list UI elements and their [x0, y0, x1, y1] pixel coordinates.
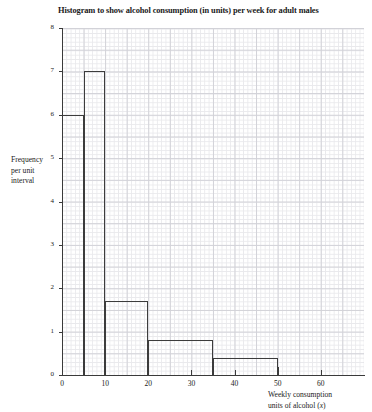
x-axis-tick — [191, 370, 192, 375]
chart-title: Histogram to show alcohol consumption (i… — [58, 5, 372, 16]
y-axis-tick — [59, 28, 62, 29]
y-axis-title: Frequency per unit interval — [11, 155, 61, 187]
x-axis-title-suffix: ) — [323, 401, 326, 410]
x-axis-line — [62, 375, 365, 376]
histogram-bar — [148, 340, 213, 375]
x-axis-bin-edge-tick — [105, 367, 106, 375]
y-axis-tick — [59, 375, 62, 376]
x-axis-bin-edge-tick — [213, 367, 214, 375]
y-axis-title-line-1: Frequency — [11, 155, 61, 166]
x-axis-tick-label: 0 — [52, 379, 72, 388]
x-axis-title: Weekly consumption units of alcohol (x) — [268, 390, 372, 411]
x-axis-tick-label: 60 — [311, 379, 331, 388]
histogram-bar — [84, 71, 106, 375]
histogram-bar — [213, 358, 278, 375]
y-axis-tick — [59, 245, 62, 246]
x-axis-tick-label: 40 — [225, 379, 245, 388]
y-axis-tick — [59, 115, 62, 116]
y-axis-tick-label: 0 — [40, 370, 54, 378]
x-axis-tick — [321, 370, 322, 375]
x-axis-tick — [235, 370, 236, 375]
x-axis-tick-label: 30 — [181, 379, 201, 388]
y-axis-tick-label: 1 — [40, 327, 54, 335]
histogram-bar — [62, 115, 84, 375]
x-axis-title-line-1: Weekly consumption — [268, 390, 372, 401]
x-axis-tick-label: 50 — [268, 379, 288, 388]
y-axis-line — [62, 28, 63, 376]
y-axis-tick — [59, 332, 62, 333]
plot-area — [62, 28, 364, 375]
y-axis-tick-label: 7 — [40, 66, 54, 74]
y-axis-tick — [59, 202, 62, 203]
y-axis-title-line-3: interval — [11, 176, 61, 187]
x-axis-bin-edge-tick — [84, 367, 85, 375]
x-axis-tick-label: 10 — [95, 379, 115, 388]
y-axis-title-line-2: per unit — [11, 166, 61, 177]
histogram-bar — [105, 301, 148, 375]
x-axis-bin-edge-tick — [278, 367, 279, 375]
y-axis-tick-label: 2 — [40, 283, 54, 291]
y-axis-tick-label: 6 — [40, 110, 54, 118]
y-axis-tick-label: 8 — [40, 23, 54, 31]
y-axis-tick-label: 4 — [40, 197, 54, 205]
x-axis-title-prefix: units of alcohol ( — [268, 401, 320, 410]
x-axis-bin-edge-tick — [148, 367, 149, 375]
y-axis-tick-label: 3 — [40, 240, 54, 248]
x-axis-bin-edge-tick — [62, 367, 63, 375]
y-axis-tick — [59, 288, 62, 289]
x-axis-title-line-2: units of alcohol (x) — [268, 401, 372, 412]
y-axis-tick — [59, 71, 62, 72]
x-axis-tick-label: 20 — [138, 379, 158, 388]
